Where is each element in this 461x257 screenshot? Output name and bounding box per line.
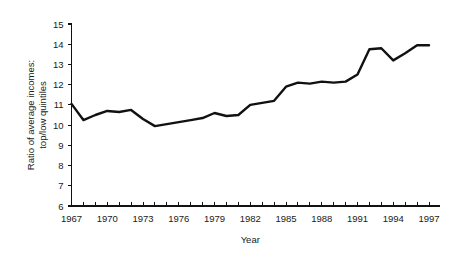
y-tick-label: 15	[53, 19, 64, 30]
x-tick-label: 1967	[61, 213, 82, 224]
x-tick-label: 1976	[168, 213, 189, 224]
y-tick-label: 11	[54, 99, 64, 110]
x-tick-label: 1988	[311, 213, 332, 224]
x-tick-label: 1982	[240, 213, 261, 224]
y-axis-title-line1: Ratio of average incomes:	[25, 60, 36, 170]
x-tick-label: 1973	[132, 213, 153, 224]
y-tick-label: 14	[53, 39, 64, 50]
x-axis-title: Year	[241, 234, 260, 245]
y-tick-label: 12	[53, 79, 64, 90]
x-tick-label: 1985	[275, 213, 296, 224]
y-tick-label: 10	[53, 120, 64, 131]
y-tick-label: 13	[53, 59, 64, 70]
chart-figure: 1514131211109876 19671970197319761979198…	[0, 0, 461, 257]
x-axis-tick-labels: 1967197019731976197919821985198819911994…	[61, 213, 440, 224]
y-axis-tick-labels: 1514131211109876	[53, 19, 64, 212]
y-axis-title-line2: top/low quintiles	[37, 81, 48, 149]
data-series-line	[72, 45, 430, 126]
x-tick-label: 1991	[347, 213, 368, 224]
x-tick-label: 1994	[383, 213, 404, 224]
x-tick-label: 1979	[204, 213, 225, 224]
y-tick-label: 7	[58, 180, 63, 191]
y-tick-label: 6	[58, 201, 63, 212]
line-chart-svg: 1514131211109876 19671970197319761979198…	[0, 0, 461, 257]
x-tick-label: 1970	[97, 213, 118, 224]
x-tick-label: 1997	[418, 213, 439, 224]
y-tick-label: 9	[58, 140, 63, 151]
y-tick-label: 8	[58, 160, 63, 171]
